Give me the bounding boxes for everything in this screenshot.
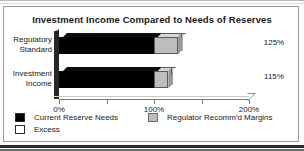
x-axis-arrow-icon bbox=[240, 93, 256, 101]
x-axis-tick bbox=[154, 100, 155, 104]
legend-item-excess: Excess bbox=[15, 125, 60, 134]
legend-label: Excess bbox=[34, 125, 60, 134]
legend-item-regulator-margins: Regulator Recomm'd Margins bbox=[148, 113, 273, 122]
page-edge-line-top bbox=[0, 0, 304, 1]
x-axis-tick bbox=[59, 100, 60, 104]
data-label-regulatory-standard: 125% bbox=[252, 38, 296, 47]
page-edge-band-bottom bbox=[0, 145, 304, 148]
category-label-line-1: Regulatory bbox=[0, 35, 52, 45]
bar-segment-regulator-margins bbox=[154, 71, 168, 88]
chart-figure: Investment Income Compared to Needs of R… bbox=[3, 6, 299, 142]
x-axis-tick bbox=[202, 100, 203, 104]
bar-segment-regulator-margins bbox=[154, 37, 178, 54]
category-label-regulatory-standard: Regulatory Standard bbox=[0, 35, 52, 54]
category-label-investment-income: Investment Income bbox=[0, 69, 52, 88]
legend-item-current-reserve-needs: Current Reserve Needs bbox=[15, 113, 118, 122]
legend-label: Current Reserve Needs bbox=[34, 113, 118, 122]
legend-swatch-gray-icon bbox=[148, 113, 158, 122]
data-label-investment-income: 115% bbox=[252, 72, 296, 81]
page-edge-band-bottom-secondary bbox=[0, 149, 304, 151]
legend-swatch-white-icon bbox=[15, 125, 25, 134]
chart-legend: Current Reserve Needs Excess Regulator R… bbox=[4, 111, 300, 141]
category-label-line-1: Investment bbox=[0, 69, 52, 79]
page-edge-line-top-secondary bbox=[0, 3, 304, 4]
plot-area: Regulatory Standard Investment Income bbox=[4, 29, 300, 107]
screenshot-root: Investment Income Compared to Needs of R… bbox=[0, 0, 304, 151]
bar-segment-current-reserve-needs bbox=[59, 71, 154, 88]
bar-segment-current-reserve-needs bbox=[59, 37, 154, 54]
legend-label: Regulator Recomm'd Margins bbox=[167, 113, 273, 122]
legend-swatch-black-icon bbox=[15, 113, 25, 122]
chart-title: Investment Income Compared to Needs of R… bbox=[4, 14, 300, 25]
x-axis-tick bbox=[249, 100, 250, 104]
category-label-line-2: Standard bbox=[0, 45, 52, 55]
category-label-line-2: Income bbox=[0, 79, 52, 89]
x-axis-tick bbox=[107, 100, 108, 104]
x-axis-back-edge bbox=[54, 96, 249, 97]
